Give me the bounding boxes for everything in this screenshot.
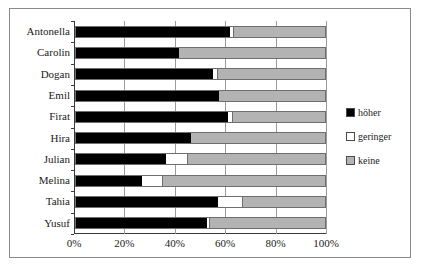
stacked-bar[interactable] — [75, 153, 326, 165]
bar-segment-keine[interactable] — [210, 218, 325, 228]
category-label: Carolin — [0, 42, 70, 63]
stacked-bar[interactable] — [75, 47, 326, 59]
y-axis-tick — [71, 149, 74, 150]
legend-label: keine — [358, 155, 380, 166]
bar-segment-höher[interactable] — [76, 27, 230, 37]
stacked-bar[interactable] — [75, 132, 326, 144]
y-axis-tick — [71, 213, 74, 214]
bar-segment-keine[interactable] — [218, 69, 325, 79]
bar-segment-höher[interactable] — [76, 91, 219, 101]
bar-row[interactable] — [75, 42, 326, 63]
bar-row[interactable] — [75, 21, 326, 42]
stacked-bar[interactable] — [75, 68, 326, 80]
legend-label: geringer — [358, 131, 391, 142]
legend-swatch-icon — [346, 132, 355, 141]
category-label: Emil — [0, 85, 70, 106]
y-axis-tick — [71, 106, 74, 107]
plot-area — [74, 21, 326, 234]
bar-row[interactable] — [75, 191, 326, 212]
y-axis-tick — [71, 42, 74, 43]
bar-segment-keine[interactable] — [243, 197, 325, 207]
y-axis-tick — [71, 21, 74, 22]
y-axis-tick — [71, 191, 74, 192]
bar-segment-höher[interactable] — [76, 48, 179, 58]
stacked-bar[interactable] — [75, 217, 326, 229]
bar-segment-geringer[interactable] — [218, 197, 243, 207]
bar-row[interactable] — [75, 128, 326, 149]
category-label: Melina — [0, 170, 70, 191]
bar-segment-höher[interactable] — [76, 218, 207, 228]
category-label: Firat — [0, 106, 70, 127]
bar-segment-keine[interactable] — [188, 154, 325, 164]
bar-segment-höher[interactable] — [76, 69, 213, 79]
gridline-100 — [326, 21, 327, 234]
bar-segment-höher[interactable] — [76, 197, 218, 207]
category-label: Antonella — [0, 21, 70, 42]
x-axis-tick-label: 100% — [313, 237, 339, 249]
legend-item[interactable]: geringer — [346, 131, 416, 142]
y-axis-tick — [71, 170, 74, 171]
y-axis-tick — [71, 234, 74, 235]
category-label: Hira — [0, 128, 70, 149]
category-label: Dogan — [0, 64, 70, 85]
legend-swatch-icon — [346, 108, 355, 117]
stacked-bar[interactable] — [75, 111, 326, 123]
bar-segment-höher[interactable] — [76, 133, 191, 143]
x-axis-tick-label: 0% — [67, 237, 82, 249]
bar-row[interactable] — [75, 106, 326, 127]
category-label: Julian — [0, 149, 70, 170]
bar-row[interactable] — [75, 85, 326, 106]
bar-segment-keine[interactable] — [219, 91, 325, 101]
x-axis-labels: 0%20%40%60%80%100% — [74, 237, 326, 253]
legend-label: höher — [358, 107, 381, 118]
y-axis-tick — [71, 85, 74, 86]
chart-frame: AntonellaCarolinDoganEmilFiratHiraJulian… — [9, 8, 411, 258]
legend-item[interactable]: höher — [346, 107, 416, 118]
bar-segment-geringer[interactable] — [166, 154, 188, 164]
category-label: Tahia — [0, 191, 70, 212]
stacked-bar[interactable] — [75, 26, 326, 38]
chart-legend: höhergeringerkeine — [346, 107, 416, 179]
stacked-bar[interactable] — [75, 175, 326, 187]
bar-row[interactable] — [75, 170, 326, 191]
category-label: Yusuf — [0, 213, 70, 234]
category-axis-labels: AntonellaCarolinDoganEmilFiratHiraJulian… — [10, 21, 70, 234]
x-axis-tick-label: 40% — [165, 237, 185, 249]
x-axis-tick-label: 60% — [215, 237, 235, 249]
legend-item[interactable]: keine — [346, 155, 416, 166]
bar-segment-keine[interactable] — [163, 176, 325, 186]
y-axis-tick — [71, 128, 74, 129]
stacked-bar[interactable] — [75, 196, 326, 208]
bar-segment-keine[interactable] — [234, 27, 325, 37]
bar-row[interactable] — [75, 149, 326, 170]
bar-segment-höher[interactable] — [76, 112, 228, 122]
stacked-bar[interactable] — [75, 90, 326, 102]
bar-segment-keine[interactable] — [233, 112, 325, 122]
x-axis-tick-label: 80% — [266, 237, 286, 249]
y-axis-tick — [71, 64, 74, 65]
bar-segment-geringer[interactable] — [142, 176, 163, 186]
bar-segment-keine[interactable] — [179, 48, 325, 58]
bar-row[interactable] — [75, 64, 326, 85]
bar-segment-höher[interactable] — [76, 154, 166, 164]
x-axis-tick-label: 20% — [114, 237, 134, 249]
bar-segment-keine[interactable] — [191, 133, 325, 143]
bar-row[interactable] — [75, 213, 326, 234]
legend-swatch-icon — [346, 156, 355, 165]
bar-rows — [74, 21, 326, 234]
bar-segment-höher[interactable] — [76, 176, 142, 186]
